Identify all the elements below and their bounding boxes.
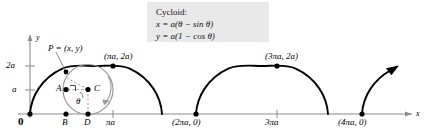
formula-heading: Cycloid: xyxy=(156,7,187,17)
peak-first-label: (πa, 2a) xyxy=(104,52,133,61)
contact-label-a: A xyxy=(56,84,62,93)
angle-arc xyxy=(80,92,83,98)
origin-label: 0 xyxy=(18,116,24,127)
point-p-label: P = (x, y) xyxy=(48,44,82,53)
x-axis-label: x xyxy=(416,110,420,118)
x-tick-label-pia: πa xyxy=(106,118,115,127)
point-b xyxy=(63,111,68,116)
point-c xyxy=(85,87,90,92)
x-tick-label-3pia: 3πa xyxy=(265,118,279,127)
point-cusp-second xyxy=(359,111,364,116)
peak-second-label: (3πa, 2a) xyxy=(265,52,298,61)
cusp-second-label: (4πa, 0) xyxy=(338,118,367,127)
point-peak-first xyxy=(110,63,115,68)
point-p xyxy=(64,70,69,75)
base-label-d: D xyxy=(84,118,91,127)
formula-box: Cycloid: x = a(θ − sin θ) y = a(1 − cos … xyxy=(147,2,269,42)
point-origin xyxy=(27,111,32,116)
center-label-c: C xyxy=(94,84,100,93)
cycloid-curve xyxy=(30,66,399,114)
y-tick-label-2a: 2a xyxy=(6,61,15,70)
point-d xyxy=(85,111,90,116)
formula-equation-y: y = a(1 − cos θ) xyxy=(156,31,215,41)
base-label-b: B xyxy=(62,118,68,127)
y-axis-label: y xyxy=(36,34,40,42)
point-peak-second xyxy=(274,63,279,68)
point-a xyxy=(63,87,68,92)
cusp-first-label: (2πa, 0) xyxy=(172,118,201,127)
cycloid-figure: Cycloid: x = a(θ − sin θ) y = a(1 − cos … xyxy=(0,0,434,138)
formula-equation-x: x = a(θ − sin θ) xyxy=(156,19,213,29)
y-tick-label-a: a xyxy=(12,85,17,94)
right-angle-marker xyxy=(70,86,76,92)
point-cusp-first xyxy=(193,111,198,116)
angle-label-theta: θ xyxy=(76,97,80,106)
